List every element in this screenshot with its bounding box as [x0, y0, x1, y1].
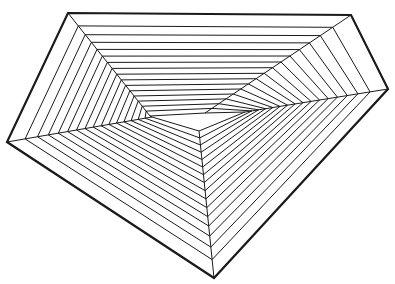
nested-pentagon-diagram — [0, 0, 395, 284]
inner-pentagon-layer — [25, 26, 370, 260]
pentagon-layers — [7, 13, 388, 278]
inner-pentagon-layer — [48, 42, 347, 236]
inner-pentagon-layer — [38, 35, 358, 247]
vertex-spoke — [68, 13, 150, 116]
